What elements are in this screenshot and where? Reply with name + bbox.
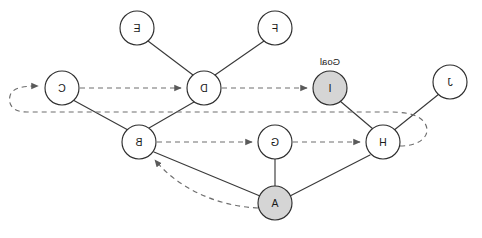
graph-svg: F E J I D C H G B A Goal	[0, 0, 482, 238]
edge-J-H	[393, 94, 439, 131]
node-label-H: H	[379, 136, 387, 148]
node-group	[45, 11, 467, 220]
edge-H-I	[340, 101, 373, 129]
node-label-F: F	[272, 22, 278, 34]
edge-A-H	[290, 155, 370, 196]
node-label-A: A	[271, 197, 278, 209]
dashed-arrow-group	[10, 86, 427, 208]
node-label-G: G	[271, 136, 279, 148]
node-label-E: E	[133, 22, 140, 34]
edge-D-B	[149, 102, 194, 128]
node-label-J: J	[447, 76, 452, 88]
node-label-D: D	[200, 82, 208, 94]
arrow-A-to-B-curve	[155, 160, 258, 208]
diagram-canvas: F E J I D C H G B A Goal	[0, 0, 482, 238]
edge-F-D	[215, 41, 264, 75]
edge-C-B	[73, 100, 128, 130]
goal-annotation-label: Goal	[320, 56, 340, 67]
node-label-C: C	[58, 82, 66, 94]
node-label-I: I	[329, 82, 332, 94]
edge-E-D	[148, 41, 193, 75]
edge-B-A	[154, 152, 260, 196]
node-label-group: F E J I D C H G B A	[58, 22, 453, 209]
mirrored-figure-layer: F E J I D C H G B A Goal	[0, 0, 482, 238]
solid-edge-group	[73, 41, 439, 196]
node-label-B: B	[135, 136, 142, 148]
